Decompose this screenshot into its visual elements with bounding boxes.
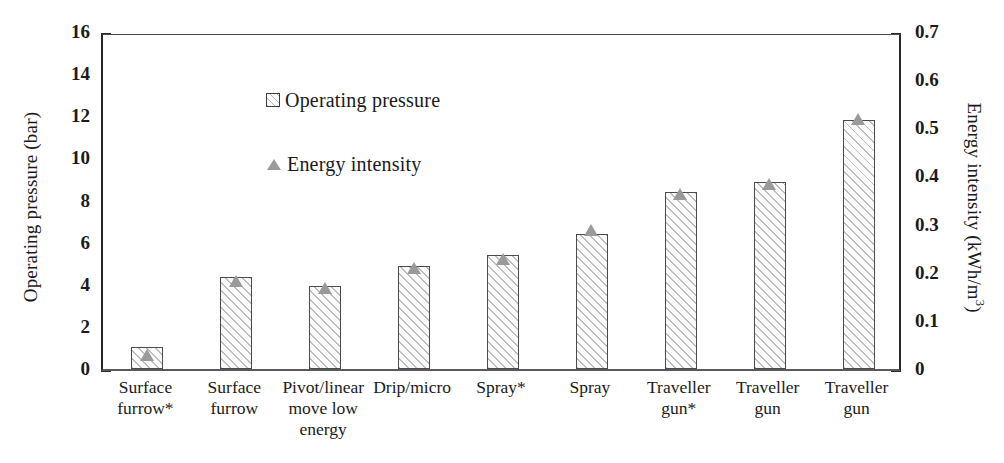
- hatched-square-icon: [266, 93, 280, 107]
- bar-2: [309, 286, 341, 369]
- energy-intensity-marker-3: [407, 262, 421, 274]
- right-axis-tick-label-0: 0: [915, 358, 975, 380]
- bar-1: [220, 277, 252, 369]
- bar-8: [843, 120, 875, 369]
- bar-5: [576, 234, 608, 369]
- plot-area: Operating pressure Energy intensity: [101, 34, 901, 371]
- energy-intensity-marker-1: [229, 275, 243, 287]
- x-axis-label-line: Traveller: [796, 377, 918, 398]
- energy-intensity-marker-2: [318, 282, 332, 294]
- energy-intensity-marker-0: [140, 349, 154, 361]
- left-axis-tick-label-1: 2: [30, 316, 90, 338]
- x-axis-label-line: gun: [796, 398, 918, 419]
- chart-figure: Operating pressure (bar) Energy intensit…: [0, 0, 1004, 463]
- left-axis-tick-label-6: 12: [30, 105, 90, 127]
- left-axis-tick-label-7: 14: [30, 63, 90, 85]
- x-axis-label-line: energy: [262, 419, 384, 440]
- left-axis-tick-label-3: 6: [30, 232, 90, 254]
- right-axis-tick-label-2: 0.2: [915, 262, 975, 284]
- bar-6: [665, 192, 697, 369]
- right-axis-tick-label-4: 0.4: [915, 165, 975, 187]
- right-axis-tick-label-6: 0.6: [915, 69, 975, 91]
- right-axis-tick-label-5: 0.5: [915, 117, 975, 139]
- bar-4: [487, 255, 519, 369]
- energy-intensity-marker-4: [496, 253, 510, 265]
- left-axis-tick-label-8: 16: [30, 21, 90, 43]
- legend-item-energy-intensity: Energy intensity: [266, 151, 440, 177]
- left-axis-tick-label-2: 4: [30, 274, 90, 296]
- x-axis-label-8: Travellergun: [796, 377, 918, 419]
- bar-7: [754, 182, 786, 369]
- legend-item-operating-pressure: Operating pressure: [266, 87, 440, 113]
- right-axis-tick-label-3: 0.3: [915, 214, 975, 236]
- right-axis-tick-label-7: 0.7: [915, 21, 975, 43]
- left-axis-tick-label-4: 8: [30, 190, 90, 212]
- legend-label-energy-intensity: Energy intensity: [287, 153, 421, 176]
- chart-legend: Operating pressure Energy intensity: [266, 87, 440, 177]
- energy-intensity-marker-8: [851, 113, 865, 125]
- legend-label-operating-pressure: Operating pressure: [285, 89, 440, 112]
- right-axis-tick-label-1: 0.1: [915, 310, 975, 332]
- energy-intensity-marker-7: [762, 178, 776, 190]
- energy-intensity-marker-6: [673, 188, 687, 200]
- bar-3: [398, 266, 430, 369]
- x-axis-label-line: move low: [262, 398, 384, 419]
- triangle-marker-icon: [267, 159, 281, 170]
- left-axis-tick-label-5: 10: [30, 147, 90, 169]
- left-axis-tick-label-0: 0: [30, 358, 90, 380]
- energy-intensity-marker-5: [584, 224, 598, 236]
